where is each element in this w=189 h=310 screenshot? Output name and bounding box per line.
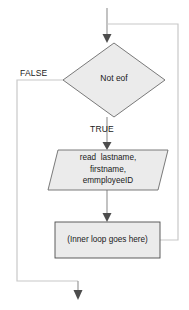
connector-input-to-process [103, 190, 112, 222]
decision-node-not-eof [63, 43, 165, 117]
connector-entry [103, 8, 112, 43]
process-node-inner-loop [55, 222, 160, 258]
connector-exit-arrow [74, 281, 83, 300]
flowchart-graphics [0, 0, 189, 310]
flowchart-diagram: Not eof read lastname, firstname, emmplo… [0, 0, 189, 310]
input-node-read-record [48, 150, 168, 190]
edge-label-false: FALSE [20, 68, 47, 78]
edge-label-true: TRUE [90, 124, 114, 134]
